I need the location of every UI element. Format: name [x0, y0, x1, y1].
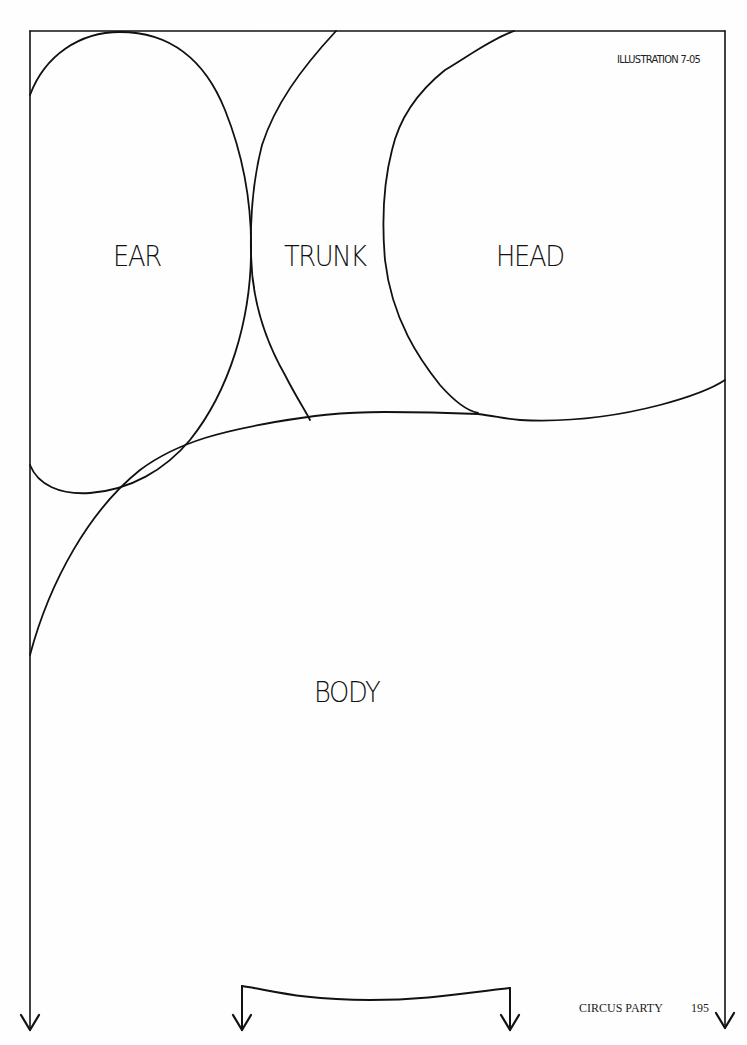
trunk-label: TRUNK — [284, 240, 366, 273]
illustration-id: ILLUSTRATION 7-05 — [617, 53, 700, 66]
trunk-outline — [251, 31, 336, 420]
pattern-page: ILLUSTRATION 7-05 EAR TRUNK HEAD BODY CI… — [0, 0, 747, 1045]
footer-section-title: CIRCUS PARTY — [579, 1001, 663, 1016]
elephant-pattern-outline — [0, 0, 747, 1045]
body-label: BODY — [314, 676, 379, 709]
head-label: HEAD — [496, 240, 564, 273]
bracket-line — [242, 986, 510, 1000]
head-outline — [383, 31, 514, 413]
footer-page-number: 195 — [691, 1001, 709, 1016]
body-outline — [30, 380, 725, 655]
ear-label: EAR — [113, 240, 161, 273]
